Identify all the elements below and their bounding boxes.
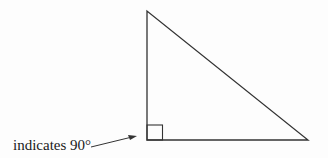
right-triangle-diagram: indicates 90°	[0, 0, 328, 158]
diagram-graphic	[0, 0, 328, 158]
right-angle-marker	[147, 125, 163, 140]
triangle	[147, 11, 308, 140]
pointer-arrow-line	[91, 137, 132, 147]
arrowhead-icon	[128, 135, 137, 140]
annotation-label: indicates 90°	[13, 137, 91, 154]
